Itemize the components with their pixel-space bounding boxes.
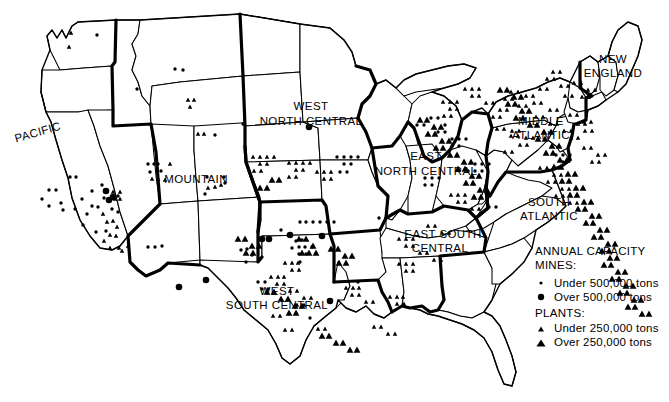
plant-marker-large xyxy=(354,346,361,352)
mine-marker-small xyxy=(241,122,244,125)
plant-marker-large xyxy=(559,177,566,183)
coal-map-figure: PACIFICMOUNTAINWESTNORTH CENTRALEASTNORT… xyxy=(0,0,669,402)
plant-marker-large xyxy=(622,268,629,274)
mine-marker-small xyxy=(487,162,490,165)
plant-marker-large xyxy=(340,339,347,345)
mine-marker-small xyxy=(487,205,490,208)
mine-marker-small xyxy=(335,155,338,158)
mine-marker-small xyxy=(345,170,348,173)
plant-marker-small xyxy=(455,100,460,104)
plant-marker-large xyxy=(566,177,573,183)
mine-marker-small xyxy=(318,220,321,223)
plant-marker-small xyxy=(583,129,588,133)
mine-marker-small xyxy=(181,68,184,71)
plant-marker-large xyxy=(604,226,611,232)
region-label-middle-atlantic-2: ATLANTIC xyxy=(512,129,570,141)
legend-mines-under-label: Under 500,000 tons xyxy=(554,277,659,289)
mine-marker-small xyxy=(423,183,426,186)
mine-marker-small xyxy=(450,137,453,140)
mine-marker-large xyxy=(176,284,183,291)
plant-marker-large xyxy=(597,226,604,232)
plant-marker-large xyxy=(572,170,579,176)
plant-marker-small xyxy=(603,153,608,157)
region-label-east-north-central: EAST xyxy=(410,150,442,162)
mine-marker-small xyxy=(494,205,497,208)
plant-marker-small xyxy=(477,94,482,98)
plant-marker-large xyxy=(504,86,511,92)
mine-marker-small xyxy=(213,133,216,136)
plant-marker-large xyxy=(646,310,653,316)
region-label-east-south-central-2: CENTRAL xyxy=(412,242,469,254)
region-label-pacific: PACIFIC xyxy=(13,120,62,145)
mine-marker-small xyxy=(95,33,98,36)
plant-marker-small xyxy=(470,94,475,98)
mine-marker-small xyxy=(342,155,345,158)
mine-marker-small xyxy=(81,223,84,226)
plant-marker-large xyxy=(590,219,597,225)
mine-marker-small xyxy=(384,216,387,219)
plant-marker-large xyxy=(589,212,596,218)
legend-plants-over-label: Over 250,000 tons xyxy=(554,336,652,348)
mine-marker-small xyxy=(480,162,483,165)
mine-marker-small xyxy=(152,162,155,165)
mine-marker-small xyxy=(156,162,159,165)
legend-heading-line1: ANNUAL CAPACITY xyxy=(535,245,646,257)
plant-marker-small xyxy=(560,187,565,191)
mine-marker-small xyxy=(116,210,119,213)
plant-marker-large xyxy=(632,303,639,309)
plant-marker-small xyxy=(372,325,377,329)
plant-marker-small xyxy=(316,327,321,331)
mine-marker-small xyxy=(338,170,341,173)
plant-marker-small xyxy=(393,332,398,336)
plant-marker-large xyxy=(596,212,603,218)
mine-marker-small xyxy=(349,162,352,165)
mine-marker-small xyxy=(148,170,151,173)
mine-marker-small xyxy=(415,123,418,126)
mine-marker-small xyxy=(85,212,88,215)
plant-marker-large xyxy=(601,261,608,267)
mine-marker-small xyxy=(244,260,247,263)
plant-marker-small xyxy=(323,327,328,331)
mine-marker-small xyxy=(239,248,242,251)
legend-small-triangle-icon xyxy=(538,327,544,332)
legend-heading-plants: PLANTS: xyxy=(535,307,585,319)
mine-marker-small xyxy=(349,155,352,158)
plant-marker-small xyxy=(545,77,550,81)
legend-large-dot-icon xyxy=(538,294,544,300)
plant-marker-large xyxy=(574,191,581,197)
mine-marker-small xyxy=(342,162,345,165)
mine-marker-small xyxy=(73,207,76,210)
mine-marker-small xyxy=(203,192,206,195)
plant-marker-large xyxy=(581,198,588,204)
mine-marker-small xyxy=(290,246,293,249)
plant-marker-small xyxy=(546,180,551,184)
mine-marker-small xyxy=(116,194,119,197)
region-label-south-atlantic-2: ATLANTIC xyxy=(520,210,578,222)
mine-marker-small xyxy=(40,197,43,200)
plant-marker-small xyxy=(576,136,581,140)
region-label-west-north-central-2: NORTH CENTRAL xyxy=(260,115,363,127)
mine-marker-small xyxy=(297,245,300,248)
mine-marker-small xyxy=(436,116,439,119)
mine-marker-small xyxy=(135,87,138,90)
mine-marker-small xyxy=(256,280,259,283)
plant-marker-large xyxy=(333,339,340,345)
mine-marker-small xyxy=(94,230,97,233)
plant-marker-small xyxy=(589,120,594,124)
plant-marker-small xyxy=(470,87,475,91)
plant-marker-large xyxy=(625,303,632,309)
mine-marker-small xyxy=(457,137,460,140)
plant-marker-small xyxy=(572,81,577,85)
plant-marker-small xyxy=(477,207,482,211)
region-label-east-south-central: EAST SOUTH xyxy=(404,228,481,240)
plant-marker-small xyxy=(484,101,489,105)
region-label-middle-atlantic: MIDDLE xyxy=(518,115,564,127)
mine-marker-large xyxy=(203,277,210,284)
mine-marker-small xyxy=(90,189,93,192)
mine-marker-small xyxy=(325,220,328,223)
plant-marker-large xyxy=(608,261,615,267)
region-label-new-england: NEW xyxy=(599,53,627,65)
mine-marker-small xyxy=(436,130,439,133)
legend-plants-under-label: Under 250,000 tons xyxy=(554,322,659,334)
mine-marker-small xyxy=(279,228,282,231)
